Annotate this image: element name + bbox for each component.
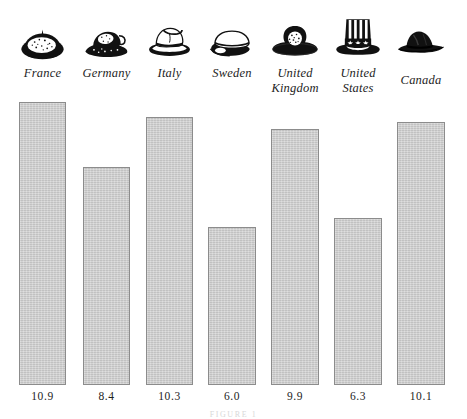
- bar-chart-figure: France 10.9 Ger: [0, 0, 467, 419]
- beret-hat-icon: [19, 2, 66, 66]
- chart-column-united-states: United States 6.3: [334, 0, 382, 419]
- value-label-canada: 10.1: [391, 390, 451, 402]
- value-label-france: 10.9: [13, 390, 72, 402]
- value-label-united-states: 6.3: [328, 390, 388, 402]
- uncle-sam-top-hat-icon: [334, 2, 382, 66]
- flat-cap-hat-icon: [208, 2, 256, 66]
- bar-canada: [397, 122, 445, 385]
- chart-column-canada: Canada 10.1: [397, 0, 445, 419]
- country-label-sweden: Sweden: [202, 66, 262, 81]
- bar-sweden: [208, 227, 256, 385]
- bar-united-kingdom: [271, 129, 319, 385]
- chart-column-germany: Germany 8.4: [83, 0, 130, 419]
- mountie-hat-icon: [397, 2, 445, 66]
- chart-column-italy: Italy 10.3: [146, 0, 193, 419]
- fedora-hat-icon: [146, 2, 193, 66]
- bar-united-states: [334, 218, 382, 385]
- bar-italy: [146, 117, 193, 385]
- value-label-sweden: 6.0: [202, 390, 262, 402]
- chart-column-united-kingdom: United Kingdom 9.9: [271, 0, 319, 419]
- value-label-germany: 8.4: [77, 390, 136, 402]
- country-label-canada: Canada: [391, 73, 451, 88]
- figure-caption: FIGURE 1: [0, 410, 467, 419]
- country-label-germany: Germany: [77, 66, 136, 81]
- tyrolean-hat-icon: [83, 2, 130, 66]
- chart-column-sweden: Sweden 6.0: [208, 0, 256, 419]
- country-label-france: France: [13, 66, 72, 81]
- country-label-united-kingdom: United Kingdom: [265, 66, 325, 95]
- country-label-united-states: United States: [328, 66, 388, 95]
- bowler-hat-icon: [271, 2, 319, 66]
- value-label-italy: 10.3: [140, 390, 199, 402]
- bar-france: [19, 102, 66, 385]
- country-label-italy: Italy: [140, 66, 199, 81]
- value-label-united-kingdom: 9.9: [265, 390, 325, 402]
- chart-column-france: France 10.9: [19, 0, 66, 419]
- bar-germany: [83, 167, 130, 385]
